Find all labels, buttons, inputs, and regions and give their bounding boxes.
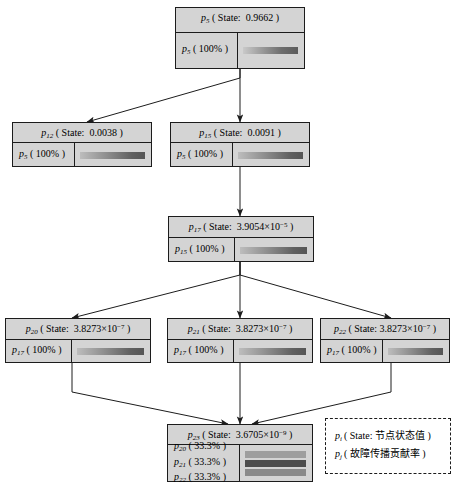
edge-n5-n12 <box>87 69 240 122</box>
node-p5-header: p5 ( State: 0.9662 ) <box>176 8 304 33</box>
node-p23[interactable]: p23 ( State: 3.6705×10−9 ) p20 ( 33.3% )… <box>167 424 313 482</box>
contrib-close: ) <box>56 344 62 355</box>
node-p5-paren-close: ) <box>273 12 279 23</box>
contrib-close: ) <box>222 43 228 54</box>
node-p20-header: p20 ( State: 3.8273×10−7 ) <box>6 319 150 340</box>
node-p17-bars <box>235 238 313 262</box>
node-p15-bars <box>233 143 309 167</box>
node-p23-state-key: State <box>208 429 228 440</box>
contrib-label: p5 ( 100% ) <box>19 148 69 163</box>
contribution-bar <box>238 152 303 159</box>
node-p22-header: p22 ( State: 3.8273×10−7 ) <box>321 319 449 340</box>
node-p22-subscript: 22 <box>339 328 346 336</box>
node-p15-contrib-labels: p5 ( 100% ) <box>171 143 233 167</box>
edge-n22-n23 <box>252 363 391 424</box>
legend-sub-j: j <box>340 452 342 460</box>
contrib-percent: 33.3% <box>194 440 220 451</box>
contrib-label: p17 ( 100% ) <box>12 344 66 359</box>
node-p23-contrib-labels: p20 ( 33.3% ) p21 ( 33.3% ) p22 ( 33.3% … <box>168 445 240 481</box>
node-p20-state-key: State <box>46 323 66 334</box>
node-p12-state-value: 0.0038 <box>89 127 117 138</box>
node-p17-paren-close: ) <box>287 221 293 232</box>
contrib-sub: 21 <box>179 460 186 468</box>
node-p12-bars <box>75 143 151 167</box>
node-p21-contrib-labels: p17 ( 100% ) <box>168 340 234 363</box>
contrib-label: p22 ( 33.3% ) <box>174 471 234 486</box>
node-p5-body: p5 ( 100% ) <box>176 33 304 68</box>
node-p5-contrib-labels: p5 ( 100% ) <box>176 33 238 68</box>
contrib-percent: 100% <box>194 344 217 355</box>
node-p12-header: p12 ( State: 0.0038 ) <box>13 123 151 143</box>
contrib-close: ) <box>220 471 226 482</box>
node-p20-body: p17 ( 100% ) <box>6 340 150 363</box>
contrib-label: p20 ( 33.3% ) <box>174 440 234 455</box>
node-p17-subscript: 17 <box>194 226 201 234</box>
node-p17-colon: : <box>229 221 237 232</box>
node-p17-state-key: State <box>209 221 229 232</box>
node-p15-state-key: State <box>220 127 240 138</box>
node-p12[interactable]: p12 ( State: 0.0038 ) p5 ( 100% ) <box>12 122 152 167</box>
node-p20-state-value: 3.8273×10 <box>74 323 117 334</box>
contrib-sub: 15 <box>180 247 187 255</box>
contrib-sub: 20 <box>179 445 186 453</box>
contribution-bar <box>388 348 443 355</box>
contribution-bar <box>245 469 306 476</box>
node-p5[interactable]: p5 ( State: 0.9662 ) p5 ( 100% ) <box>175 7 305 69</box>
contrib-close: ) <box>59 148 65 159</box>
contrib-label: p21 ( 33.3% ) <box>174 456 234 471</box>
legend-box: pi( State: 节点状态值 ) pj( 故障传播贡献率 ) <box>325 418 451 474</box>
node-p5-bars <box>238 33 304 68</box>
node-p23-state-value: 3.6705×10 <box>236 429 279 440</box>
contrib-sub: 17 <box>179 349 186 357</box>
contrib-label: p5 ( 100% ) <box>182 43 232 58</box>
node-p21-header: p21 ( State: 3.8273×10−7 ) <box>168 319 312 340</box>
node-p5-colon: : <box>238 12 246 23</box>
contrib-sub: 17 <box>332 349 339 357</box>
contrib-close: ) <box>218 344 224 355</box>
contrib-close: ) <box>371 344 377 355</box>
node-p15-state-value: 0.0091 <box>247 127 275 138</box>
node-p17[interactable]: p17 ( State: 3.9054×10−5 ) p15 ( 100% ) <box>168 216 314 262</box>
contrib-label: p15 ( 100% ) <box>175 243 229 258</box>
contrib-open: ( <box>191 43 199 54</box>
node-p22[interactable]: p22 ( State: 3.8273×10−7 ) p17 ( 100% ) <box>320 318 450 363</box>
node-p21-state-value: 3.8273×10 <box>236 323 279 334</box>
contrib-close: ) <box>217 148 223 159</box>
contribution-bar <box>80 152 145 159</box>
node-p21[interactable]: p21 ( State: 3.8273×10−7 ) p17 ( 100% ) <box>167 318 313 363</box>
contribution-bar <box>245 451 306 458</box>
contribution-bar <box>77 348 144 355</box>
contrib-percent: 100% <box>195 243 218 254</box>
node-p21-paren-open: ( <box>200 323 208 334</box>
node-p20-colon: : <box>66 323 74 334</box>
node-p23-paren-open: ( <box>200 429 208 440</box>
node-p12-paren-open: ( <box>53 127 61 138</box>
contribution-bar <box>239 348 306 355</box>
contribution-bar <box>245 460 306 467</box>
legend-line-state: pi( State: 节点状态值 ) <box>335 430 450 445</box>
node-p12-contrib-labels: p5 ( 100% ) <box>13 143 75 167</box>
node-p17-state-value: 3.9054×10 <box>237 221 280 232</box>
node-p20-bars <box>72 340 150 363</box>
contrib-close: ) <box>220 440 226 451</box>
node-p23-bars <box>240 445 312 481</box>
contrib-close: ) <box>220 456 226 467</box>
contrib-percent: 33.3% <box>194 456 220 467</box>
node-p21-subscript: 21 <box>193 328 200 336</box>
node-p15[interactable]: p15 ( State: 0.0091 ) p5 ( 100% ) <box>170 122 310 167</box>
node-p12-body: p5 ( 100% ) <box>13 143 151 167</box>
node-p22-bars <box>383 340 449 363</box>
node-p12-paren-close: ) <box>117 127 123 138</box>
contrib-label: p5 ( 100% ) <box>177 148 227 163</box>
node-p17-paren-open: ( <box>201 221 209 232</box>
node-p22-contrib-labels: p17 ( 100% ) <box>321 340 383 363</box>
node-p17-contrib-labels: p15 ( 100% ) <box>169 238 235 262</box>
node-p23-body: p20 ( 33.3% ) p21 ( 33.3% ) p22 ( 33.3% … <box>168 445 312 481</box>
legend-text-state: ( State: 节点状态值 ) <box>344 430 431 441</box>
node-p20[interactable]: p20 ( State: 3.8273×10−7 ) p17 ( 100% ) <box>5 318 151 363</box>
node-p17-header: p17 ( State: 3.9054×10−5 ) <box>169 217 313 238</box>
contrib-open: ( <box>28 148 36 159</box>
node-p20-paren-close: ) <box>124 323 130 334</box>
node-p21-colon: : <box>228 323 236 334</box>
node-p17-body: p15 ( 100% ) <box>169 238 313 262</box>
